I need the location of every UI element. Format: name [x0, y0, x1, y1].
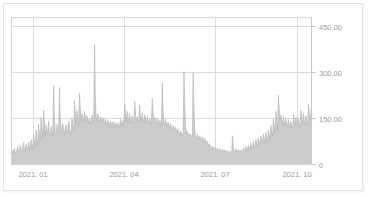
chart-plot-area [11, 45, 311, 164]
x-axis-tick-label: 2021. 07 [200, 170, 229, 179]
chart-container: 0150.00300.00450.00 2021. 012021. 042021… [4, 4, 364, 192]
y-axis-tick-label: 0 [319, 161, 323, 170]
x-axis: 2021. 012021. 042021. 072021. 10 [18, 170, 311, 179]
y-axis: 0150.00300.00450.00 [312, 17, 342, 170]
chart-card: 0150.00300.00450.00 2021. 012021. 042021… [3, 3, 363, 191]
series-area [11, 45, 311, 164]
x-axis-tick-label: 2021. 01 [18, 170, 47, 179]
y-axis-tick-label: 300.00 [319, 69, 342, 78]
x-axis-tick-label: 2021. 04 [109, 170, 138, 179]
x-axis-tick-label: 2021. 10 [282, 170, 311, 179]
y-axis-tick-label: 450.00 [319, 23, 342, 32]
y-axis-tick-label: 150.00 [319, 115, 342, 124]
area-chart[interactable]: 0150.00300.00450.00 2021. 012021. 042021… [4, 4, 364, 192]
